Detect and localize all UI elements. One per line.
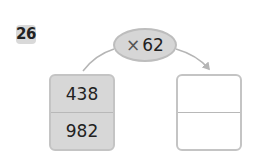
input-cell-2: 982 [51, 113, 113, 150]
input-cell-1: 438 [51, 76, 113, 113]
answer-cell-2[interactable] [178, 113, 240, 150]
input-box: 438 982 [49, 74, 115, 151]
arc-right-arrow [176, 49, 209, 69]
operand-value: 62 [142, 35, 164, 55]
answer-box[interactable] [176, 74, 242, 151]
arc-left [83, 49, 114, 71]
multiply-icon: × [126, 35, 140, 55]
answer-cell-1[interactable] [178, 76, 240, 113]
operation-oval: ×62 [113, 28, 177, 62]
